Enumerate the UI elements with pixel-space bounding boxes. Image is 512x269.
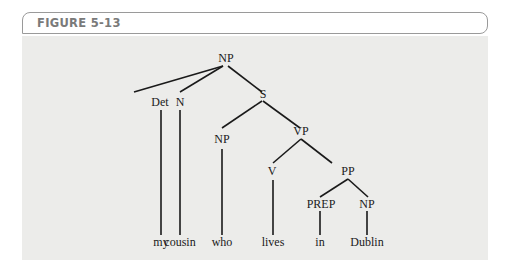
node-vp: VP: [293, 124, 309, 138]
node-np-dublin: NP: [359, 197, 375, 211]
node-pp: PP: [341, 164, 355, 178]
node-s: S: [260, 87, 267, 101]
edge-np-det: [134, 66, 223, 92]
node-det: Det: [151, 95, 169, 109]
edge-s-np: [222, 101, 262, 128]
node-prep: PREP: [307, 197, 336, 211]
edge-vp-v: [273, 139, 301, 163]
node-np-who: NP: [214, 132, 230, 146]
word-in: in: [315, 235, 324, 249]
word-dublin: Dublin: [350, 235, 383, 249]
word-cousin: cousin: [164, 235, 195, 249]
node-n: N: [176, 95, 185, 109]
node-v: V: [268, 164, 277, 178]
edge-pp-prep: [320, 179, 348, 197]
syntax-tree: NP Det N S NP VP V PP PREP NP my cousin …: [0, 0, 512, 269]
edge-vp-pp: [301, 139, 332, 163]
edge-pp-np: [348, 179, 368, 197]
word-lives: lives: [262, 235, 285, 249]
edge-np-n: [180, 66, 223, 92]
node-np-root: NP: [218, 51, 234, 65]
word-who: who: [212, 235, 233, 249]
edge-np-s: [228, 66, 262, 92]
